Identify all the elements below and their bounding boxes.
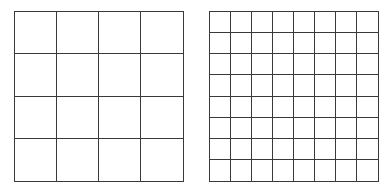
grid-cell — [294, 54, 315, 75]
grid-cell — [315, 118, 336, 139]
grid-cell — [315, 97, 336, 118]
grid-cell — [99, 97, 141, 139]
grid-cell — [315, 12, 336, 33]
fine-grid-8x8 — [209, 11, 379, 182]
grid-cell — [210, 12, 231, 33]
grid-cell — [294, 139, 315, 160]
grid-cell — [210, 118, 231, 139]
grid-cell — [357, 118, 378, 139]
grid-cell — [99, 12, 141, 54]
grid-cell — [273, 139, 294, 160]
grid-cell — [294, 118, 315, 139]
grid-cell — [336, 54, 357, 75]
grid-cell — [252, 160, 273, 181]
grid-cell — [210, 54, 231, 75]
grid-cell — [357, 75, 378, 96]
grid-cell — [210, 97, 231, 118]
grid-cell — [141, 54, 183, 96]
grid-cell — [315, 75, 336, 96]
grid-cell — [273, 33, 294, 54]
grid-cell — [294, 75, 315, 96]
grid-cell — [99, 54, 141, 96]
grid-cell — [357, 12, 378, 33]
grid-cell — [231, 97, 252, 118]
grid-cell — [273, 97, 294, 118]
grid-cell — [273, 118, 294, 139]
grid-cell — [141, 97, 183, 139]
grid-cell — [231, 118, 252, 139]
grid-cell — [315, 33, 336, 54]
grid-cell — [210, 160, 231, 181]
grid-cell — [231, 160, 252, 181]
grid-cell — [210, 33, 231, 54]
grid-cell — [357, 54, 378, 75]
grid-cell — [99, 139, 141, 181]
grid-cell — [231, 139, 252, 160]
grid-cell — [57, 139, 99, 181]
grid-cell — [252, 33, 273, 54]
grid-cell — [315, 160, 336, 181]
grid-cell — [210, 139, 231, 160]
grid-cell — [15, 139, 57, 181]
grid-cell — [336, 118, 357, 139]
grid-cell — [294, 160, 315, 181]
grid-cell — [15, 97, 57, 139]
grid-cell — [210, 75, 231, 96]
grid-cell — [273, 160, 294, 181]
grid-cell — [252, 139, 273, 160]
grid-cell — [336, 97, 357, 118]
grid-cell — [273, 75, 294, 96]
grid-cell — [357, 160, 378, 181]
grid-cell — [252, 97, 273, 118]
grid-cell — [336, 139, 357, 160]
grid-cell — [315, 54, 336, 75]
grid-cell — [273, 12, 294, 33]
grid-cell — [357, 97, 378, 118]
grid-cell — [315, 139, 336, 160]
grid-cell — [231, 54, 252, 75]
grid-cell — [336, 75, 357, 96]
grid-cell — [336, 33, 357, 54]
grid-cell — [57, 12, 99, 54]
grid-cell — [252, 118, 273, 139]
grid-cell — [252, 12, 273, 33]
grid-cell — [15, 12, 57, 54]
grid-cell — [231, 12, 252, 33]
grid-cell — [294, 12, 315, 33]
grid-cell — [252, 54, 273, 75]
grid-cell — [141, 139, 183, 181]
grid-cell — [336, 12, 357, 33]
grid-cell — [57, 54, 99, 96]
grid-cell — [15, 54, 57, 96]
grid-cell — [294, 33, 315, 54]
grid-cell — [357, 33, 378, 54]
grid-cell — [294, 97, 315, 118]
grid-cell — [57, 97, 99, 139]
grid-cell — [252, 75, 273, 96]
grid-cell — [141, 12, 183, 54]
grid-cell — [231, 33, 252, 54]
grid-cell — [273, 54, 294, 75]
grid-cell — [357, 139, 378, 160]
grid-cell — [231, 75, 252, 96]
coarse-grid-4x4 — [14, 11, 184, 182]
grid-cell — [336, 160, 357, 181]
